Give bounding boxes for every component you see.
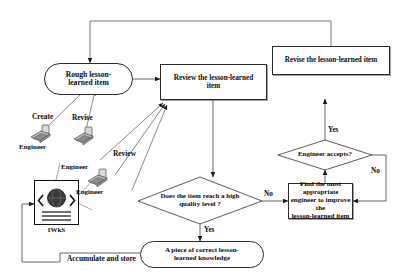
- iwks-glyph: [35, 181, 78, 224]
- node-rough-lesson-item[interactable]: Rough lesson-learned item: [44, 63, 133, 95]
- actor-engineer-create-label: Engineer: [19, 143, 46, 151]
- node-review-item[interactable]: Review the lesson-learneditem: [160, 64, 267, 100]
- edge-label-quality-yes: Yes: [204, 226, 214, 234]
- workstation-icon: [86, 168, 112, 188]
- flowchart-canvas: Rough lesson-learned item Review the les…: [0, 0, 398, 278]
- iwks-label: IWkS: [34, 226, 79, 234]
- edge-label-accepts-yes: Yes: [328, 126, 338, 134]
- node-correct-knowledge[interactable]: A piece of correct lesson-learned knowle…: [140, 241, 264, 268]
- node-quality-decision-label: Does the item reach a highquality level …: [161, 193, 240, 209]
- node-accepts-decision-label: Engineer accepts?: [298, 151, 352, 159]
- node-revise-item-label: Revise the lesson-learned item: [285, 56, 377, 64]
- node-revise-item[interactable]: Revise the lesson-learned item: [272, 46, 390, 75]
- node-accepts-decision[interactable]: Engineer accepts?: [287, 148, 363, 162]
- edge-label-accumulate-and-store: Accumulate and store: [67, 254, 136, 263]
- edge-label-quality-no: No: [264, 190, 273, 198]
- actor-engineer-review-label: Engineer: [76, 188, 103, 196]
- edge-label-create: Create: [32, 112, 53, 121]
- actor-engineer-revise[interactable]: [72, 126, 98, 150]
- connector-layer: [0, 0, 398, 278]
- edge-label-revise: Revise: [72, 113, 93, 122]
- workstation-icon: [29, 124, 55, 144]
- edge-label-accepts-no: No: [371, 167, 380, 175]
- node-find-engineer[interactable]: Find the most appropriateengineer to imp…: [288, 183, 353, 219]
- edge-label-review: Review: [113, 149, 136, 158]
- node-rough-lesson-item-label: Rough lesson-learned item: [66, 71, 111, 88]
- node-review-item-label: Review the lesson-learneditem: [174, 74, 253, 90]
- actor-engineer-revise-label: Engineer: [61, 163, 88, 171]
- node-correct-knowledge-label: A piece of correct lesson-learned knowle…: [165, 247, 239, 263]
- node-find-engineer-label: Find the most appropriateengineer to imp…: [289, 181, 352, 220]
- iwks-system-icon[interactable]: [34, 180, 79, 225]
- workstation-icon: [72, 126, 98, 146]
- node-quality-decision[interactable]: Does the item reach a highquality level …: [144, 189, 256, 213]
